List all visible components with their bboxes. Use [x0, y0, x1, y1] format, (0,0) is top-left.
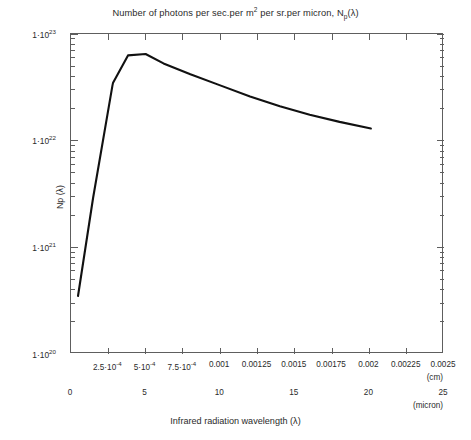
y-tick-mantissa: 1·10	[32, 243, 49, 253]
title-mid: per sr.per micron, N	[258, 8, 344, 18]
y-tick-exponent: 22	[49, 134, 56, 141]
x-tick-label-micron-0: 0	[40, 388, 100, 397]
plot-area: Np (λ)	[70, 33, 443, 353]
x-unit-cm: (cm)	[398, 373, 443, 382]
y-tick-mantissa: 1·10	[32, 136, 49, 146]
y-tick-label-1e20: 1·1020	[10, 348, 56, 360]
x-axis-title: Infrared radiation wavelength (λ)	[0, 416, 471, 426]
page-title: Number of photons per sec.per m2 per sr.…	[0, 6, 471, 20]
y-axis-title: Np (λ)	[55, 185, 65, 209]
y-tick-exponent: 23	[49, 28, 56, 35]
x-tick-label-micron-2: 10	[189, 388, 249, 397]
title-lead: Number of photons per sec.per m	[112, 8, 253, 18]
y-tick-mantissa: 1·10	[32, 30, 49, 40]
x-tick-label-micron-3: 15	[264, 388, 324, 397]
axis-ticks	[71, 34, 444, 354]
x-tick-label-cm-9: 0.0025	[413, 360, 471, 369]
title-tail: (λ)	[347, 8, 358, 18]
y-tick-label-1e21: 1·1021	[10, 241, 56, 253]
x-tick-mantissa: 7.5·10	[168, 363, 191, 372]
y-tick-label-1e23: 1·1023	[10, 28, 56, 40]
y-tick-label-1e22: 1·1022	[10, 134, 56, 146]
data-series-line	[78, 54, 371, 296]
x-unit-micron: (micron)	[383, 401, 443, 410]
y-tick-exponent: 21	[49, 241, 56, 248]
x-tick-label-micron-5: 25	[413, 388, 471, 397]
x-tick-mantissa: 2.5·10	[93, 363, 116, 372]
x-tick-label-micron-4: 20	[338, 388, 398, 397]
chart-canvas	[71, 34, 444, 354]
y-tick-exponent: 20	[49, 348, 56, 355]
x-tick-mantissa: 5·10	[134, 363, 150, 372]
x-tick-label-micron-1: 5	[115, 388, 175, 397]
y-tick-mantissa: 1·10	[32, 350, 49, 360]
